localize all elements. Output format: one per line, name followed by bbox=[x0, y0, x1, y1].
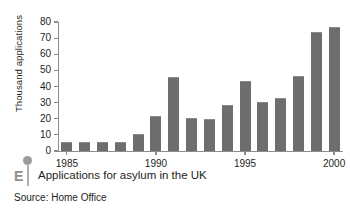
y-axis-tick bbox=[54, 102, 58, 103]
y-axis-tick-label: 70 bbox=[25, 33, 51, 43]
figure-marker-letter: E bbox=[14, 168, 23, 184]
y-axis-tick bbox=[54, 38, 58, 39]
y-axis-tick bbox=[54, 21, 58, 22]
y-axis-label: Thousand applications bbox=[13, 4, 24, 124]
plot-region: 010203040506070801985199019952000 bbox=[58, 22, 343, 151]
bar bbox=[240, 81, 251, 151]
bar bbox=[222, 105, 233, 151]
y-axis-tick-label: 60 bbox=[25, 49, 51, 59]
bar bbox=[79, 142, 90, 151]
bar bbox=[97, 142, 108, 151]
bar bbox=[311, 32, 322, 151]
y-axis-tick-label: 10 bbox=[25, 130, 51, 140]
y-axis-tick-label: 80 bbox=[25, 17, 51, 27]
bar bbox=[293, 76, 304, 151]
y-axis-tick bbox=[54, 70, 58, 71]
y-axis-tick-label: 50 bbox=[25, 65, 51, 75]
y-axis-tick bbox=[54, 134, 58, 135]
bar bbox=[168, 77, 179, 151]
bar bbox=[61, 142, 72, 151]
y-axis-tick bbox=[54, 118, 58, 119]
figure-caption: Applications for asylum in the UK bbox=[38, 169, 207, 181]
y-axis-tick-label: 20 bbox=[25, 114, 51, 124]
y-axis-tick bbox=[54, 150, 58, 151]
x-axis-tick bbox=[66, 151, 67, 155]
bar bbox=[115, 142, 126, 151]
bar bbox=[133, 134, 144, 151]
y-axis-tick bbox=[54, 54, 58, 55]
figure-source: Source: Home Office bbox=[14, 192, 107, 203]
x-axis-line bbox=[58, 151, 343, 152]
y-axis-tick-label: 30 bbox=[25, 98, 51, 108]
figure-container: Thousand applications 010203040506070801… bbox=[0, 0, 350, 217]
x-axis-tick bbox=[333, 151, 334, 155]
y-axis-tick-label: 0 bbox=[25, 146, 51, 156]
bar bbox=[329, 27, 340, 151]
chart-area: Thousand applications 010203040506070801… bbox=[0, 8, 350, 160]
y-axis-tick-label: 40 bbox=[25, 82, 51, 92]
pin-stem-icon bbox=[27, 164, 29, 186]
x-axis-tick bbox=[155, 151, 156, 155]
bar bbox=[204, 119, 215, 151]
bar bbox=[275, 98, 286, 151]
y-axis-tick bbox=[54, 86, 58, 87]
x-axis-tick bbox=[244, 151, 245, 155]
bar bbox=[257, 102, 268, 151]
bar bbox=[150, 116, 161, 151]
caption-row: E Applications for asylum in the UK bbox=[14, 166, 350, 190]
y-axis-line bbox=[58, 22, 59, 151]
bar bbox=[186, 118, 197, 151]
